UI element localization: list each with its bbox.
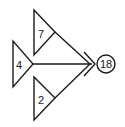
merge-diagram: 7 4 2 18	[0, 0, 125, 127]
connectors	[33, 32, 92, 98]
output-node: 18	[97, 55, 115, 73]
left-value: 4	[16, 59, 22, 71]
triangle-bottom: 2	[34, 77, 55, 120]
triangle-top: 7	[34, 10, 55, 55]
bottom-value: 2	[38, 94, 44, 106]
top-value: 7	[38, 28, 44, 40]
output-value: 18	[100, 58, 112, 70]
triangle-left: 4	[13, 41, 33, 87]
